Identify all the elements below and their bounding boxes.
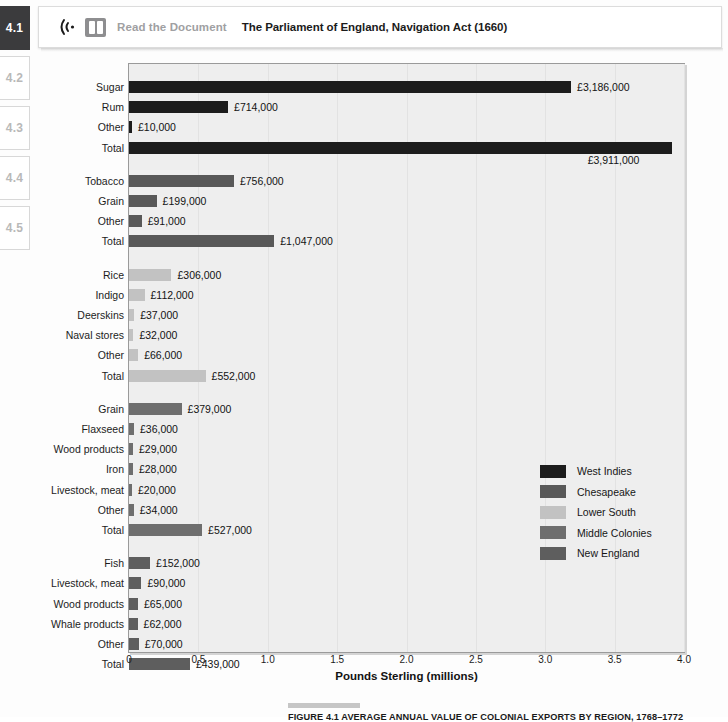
bar-value-label: £306,000 bbox=[177, 268, 221, 282]
bar-category-label: Wood products bbox=[0, 597, 124, 611]
bar bbox=[129, 598, 138, 610]
legend-swatch bbox=[540, 506, 566, 519]
bar-category-label: Grain bbox=[0, 402, 124, 416]
bar-row: Indigo£112,000 bbox=[38, 288, 722, 302]
bar bbox=[129, 121, 132, 133]
legend-item: Middle Colonies bbox=[540, 523, 652, 544]
audio-waves-icon[interactable] bbox=[56, 16, 78, 38]
x-tick-label: 3.0 bbox=[538, 654, 552, 665]
bar-row: Grain£379,000 bbox=[38, 402, 722, 416]
bar-value-label: £20,000 bbox=[138, 483, 176, 497]
bar bbox=[129, 81, 571, 93]
bar-value-label: £756,000 bbox=[240, 174, 284, 188]
bar-row: Wood products£65,000 bbox=[38, 597, 722, 611]
legend-item: Chesapeake bbox=[540, 482, 652, 503]
bar-row: Sugar£3,186,000 bbox=[38, 80, 722, 94]
bar bbox=[129, 309, 134, 321]
legend-item: Lower South bbox=[540, 502, 652, 523]
bar-category-label: Livestock, meat bbox=[0, 576, 124, 590]
bar-row: Wood products£29,000 bbox=[38, 442, 722, 456]
bar-row: Naval stores£32,000 bbox=[38, 328, 722, 342]
chart-figure: Sugar£3,186,000Rum£714,000Other£10,000To… bbox=[38, 58, 722, 690]
bar-value-label: £91,000 bbox=[148, 214, 186, 228]
bar-category-label: Tobacco bbox=[0, 174, 124, 188]
bar bbox=[129, 524, 202, 536]
legend-swatch bbox=[540, 547, 566, 560]
bar bbox=[129, 443, 133, 455]
bar-row: Total£1,047,000 bbox=[38, 234, 722, 248]
bar bbox=[129, 618, 138, 630]
bar bbox=[129, 269, 171, 281]
legend-swatch bbox=[540, 465, 566, 478]
x-tick-label: 2.0 bbox=[400, 654, 414, 665]
bar-row: Rum£714,000 bbox=[38, 100, 722, 114]
bar-category-label: Fish bbox=[0, 556, 124, 570]
book-spine bbox=[95, 19, 97, 36]
bar-category-label: Other bbox=[0, 348, 124, 362]
bar-value-label: £199,000 bbox=[163, 194, 207, 208]
bar-value-label: £552,000 bbox=[212, 369, 256, 383]
bar bbox=[129, 370, 206, 382]
bar bbox=[129, 329, 133, 341]
bar-value-label: £1,047,000 bbox=[280, 234, 333, 248]
bar-value-label: £3,911,000 bbox=[588, 153, 640, 167]
legend-swatch bbox=[540, 526, 566, 539]
bar-category-label: Rice bbox=[0, 268, 124, 282]
section-tab-4-1[interactable]: 4.1 bbox=[0, 6, 30, 50]
bar-category-label: Sugar bbox=[0, 80, 124, 94]
bar-value-label: £3,186,000 bbox=[577, 80, 630, 94]
bar-row: Whale products£62,000 bbox=[38, 617, 722, 631]
chart-legend: West IndiesChesapeakeLower SouthMiddle C… bbox=[540, 461, 652, 564]
bar-category-label: Other bbox=[0, 120, 124, 134]
bar-rows: Sugar£3,186,000Rum£714,000Other£10,000To… bbox=[38, 63, 722, 653]
bar-row: Grain£199,000 bbox=[38, 194, 722, 208]
bar-row: Tobacco£756,000 bbox=[38, 174, 722, 188]
x-axis-title: Pounds Sterling (millions) bbox=[128, 670, 685, 682]
bar bbox=[129, 289, 145, 301]
bar bbox=[129, 504, 134, 516]
bar-category-label: Wood products bbox=[0, 442, 124, 456]
bar-value-label: £527,000 bbox=[208, 523, 252, 537]
bar bbox=[129, 423, 134, 435]
bar-value-label: £29,000 bbox=[139, 442, 177, 456]
bar-row: Other£10,000 bbox=[38, 120, 722, 134]
bar-category-label: Total bbox=[0, 234, 124, 248]
legend-label: Middle Colonies bbox=[577, 527, 652, 539]
bar-category-label: Flaxseed bbox=[0, 422, 124, 436]
bar-row: Total£552,000 bbox=[38, 369, 722, 383]
bar-value-label: £36,000 bbox=[140, 422, 178, 436]
legend-label: Lower South bbox=[577, 506, 636, 518]
legend-label: Chesapeake bbox=[577, 486, 636, 498]
bar bbox=[129, 215, 142, 227]
bar-row: Rice£306,000 bbox=[38, 268, 722, 282]
bar bbox=[129, 403, 182, 415]
bar bbox=[129, 101, 228, 113]
x-tick-label: 1.0 bbox=[261, 654, 275, 665]
x-tick-label: 1.5 bbox=[330, 654, 344, 665]
bar-category-label: Total bbox=[0, 523, 124, 537]
bar-value-label: £10,000 bbox=[138, 120, 176, 134]
read-the-document-label: Read the Document bbox=[117, 21, 227, 33]
figure-caption: FIGURE 4.1 AVERAGE ANNUAL VALUE OF COLON… bbox=[288, 703, 728, 722]
bar bbox=[129, 175, 234, 187]
bar-row: Other£91,000 bbox=[38, 214, 722, 228]
bar bbox=[129, 235, 274, 247]
bar-value-label: £66,000 bbox=[144, 348, 182, 362]
bar-category-label: Whale products bbox=[0, 617, 124, 631]
legend-label: West Indies bbox=[577, 465, 632, 477]
bar bbox=[129, 557, 150, 569]
bar-row: Flaxseed£36,000 bbox=[38, 422, 722, 436]
bar-value-label: £37,000 bbox=[140, 308, 178, 322]
bar-value-label: £70,000 bbox=[145, 637, 183, 651]
bar-category-label: Grain bbox=[0, 194, 124, 208]
bar-value-label: £112,000 bbox=[151, 288, 194, 302]
open-book-icon[interactable] bbox=[85, 18, 106, 37]
bar-category-label: Total bbox=[0, 141, 124, 155]
read-the-document-bar[interactable]: Read the Document The Parliament of Engl… bbox=[38, 6, 722, 48]
legend-item: New England bbox=[540, 543, 652, 564]
bar-row: Other£70,000 bbox=[38, 637, 722, 651]
bar-category-label: Other bbox=[0, 214, 124, 228]
legend-swatch bbox=[540, 485, 566, 498]
document-title[interactable]: The Parliament of England, Navigation Ac… bbox=[242, 21, 508, 33]
